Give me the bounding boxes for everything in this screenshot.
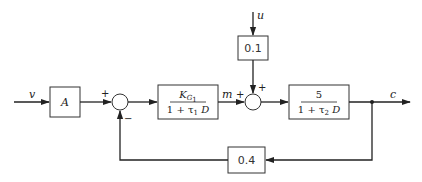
block-diagram: v A + − KG1 1 + τ1 D m + u 0.1 +	[0, 0, 422, 182]
block-controller: KG1 1 + τ1 D	[158, 85, 218, 119]
signal-label-u: u	[257, 9, 264, 22]
controller-numerator-1: 1	[192, 96, 196, 104]
signal-label-m: m	[222, 88, 232, 101]
sum1-minus-sign: −	[124, 113, 132, 124]
feedback-gain-label: 0.4	[238, 154, 256, 167]
disturbance-gain-label: 0.1	[244, 42, 262, 55]
plant-denominator-suffix: D	[329, 104, 340, 115]
controller-denominator-suffix: D	[198, 104, 209, 115]
sum2-plus-top: +	[258, 82, 266, 93]
block-gain-a: A	[50, 87, 80, 117]
signal-label-c: c	[390, 88, 396, 101]
controller-denominator-prefix: 1 + τ	[167, 104, 194, 115]
plant-denominator-prefix: 1 + τ	[298, 104, 325, 115]
input-v-signal: v	[14, 88, 49, 102]
block-a-label: A	[60, 96, 69, 109]
signal-label-v: v	[29, 88, 36, 101]
plant-numerator: 5	[316, 89, 322, 100]
sum2-plus-left: +	[236, 89, 244, 100]
block-disturbance-gain: 0.1	[238, 36, 268, 60]
block-plant: 5 1 + τ2 D	[289, 85, 349, 119]
summing-junction-1	[112, 94, 128, 110]
sum1-plus-sign: +	[101, 88, 109, 99]
summing-junction-2	[245, 94, 261, 110]
block-feedback-gain: 0.4	[228, 147, 265, 173]
